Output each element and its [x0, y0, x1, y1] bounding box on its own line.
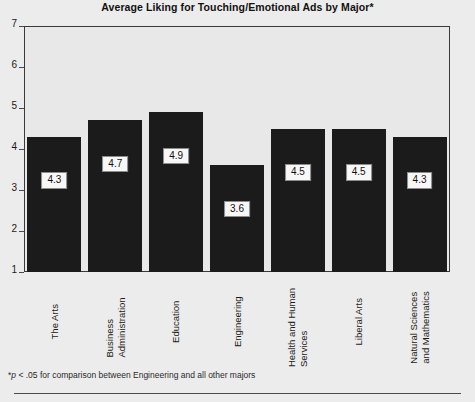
- x-axis-category-label: Health and Human Services: [267, 274, 328, 370]
- bars-layer: 4.34.74.93.64.54.54.3: [24, 26, 450, 272]
- x-axis-category-text: Liberal Arts: [353, 298, 365, 346]
- x-axis-category-label: Education: [146, 274, 207, 370]
- y-axis: 1234567: [0, 26, 24, 272]
- x-axis-category-text: Health and Human Services: [286, 288, 309, 367]
- y-axis-tick-label: 5: [11, 101, 17, 111]
- bar-value-label: 3.6: [224, 201, 250, 218]
- bar-value-label: 4.3: [407, 172, 433, 189]
- x-axis-category-text: The Arts: [49, 304, 61, 339]
- x-axis-category-text: Education: [170, 301, 182, 343]
- y-axis-tick-label: 7: [11, 19, 17, 29]
- bar-group: 4.9: [149, 26, 203, 272]
- significance-footnote: *p < .05 for comparison between Engineer…: [8, 370, 255, 380]
- bar-group: 4.5: [332, 26, 386, 272]
- x-axis-category-text: Natural Sciences and Mathematics: [408, 291, 431, 363]
- bar-group: 4.3: [393, 26, 447, 272]
- category-labels-layer: The ArtsBusiness AdministrationEducation…: [24, 274, 450, 370]
- y-axis-tick-label: 1: [11, 265, 17, 275]
- y-axis-tick-label: 6: [11, 60, 17, 70]
- chart-container: Average Liking for Touching/Emotional Ad…: [0, 0, 475, 402]
- y-axis-tick-label: 2: [11, 224, 17, 234]
- bar: [88, 120, 142, 272]
- x-axis-category-label: Natural Sciences and Mathematics: [389, 274, 450, 370]
- bar-group: 3.6: [210, 26, 264, 272]
- x-axis-category-label: Business Administration: [85, 274, 146, 370]
- chart-title: Average Liking for Touching/Emotional Ad…: [0, 1, 475, 13]
- bar: [271, 129, 325, 273]
- bar: [210, 165, 264, 272]
- bar: [332, 129, 386, 273]
- bar-value-label: 4.7: [102, 156, 128, 173]
- bar-value-label: 4.9: [163, 148, 189, 165]
- bar-group: 4.7: [88, 26, 142, 272]
- x-axis-category-label: Engineering: [207, 274, 268, 370]
- y-axis-tick-label: 4: [11, 142, 17, 152]
- bar-group: 4.5: [271, 26, 325, 272]
- x-axis-category-text: Business Administration: [104, 297, 127, 357]
- x-axis-category-text: Engineering: [231, 296, 243, 347]
- bar-value-label: 4.3: [41, 172, 67, 189]
- bar-group: 4.3: [27, 26, 81, 272]
- footnote-text: < .05 for comparison between Engineering…: [16, 370, 255, 380]
- y-axis-tick-mark: [19, 272, 24, 273]
- y-axis-tick-label: 3: [11, 183, 17, 193]
- bottom-divider: [14, 393, 461, 394]
- bar: [27, 137, 81, 272]
- x-axis-category-label: Liberal Arts: [328, 274, 389, 370]
- bar: [393, 137, 447, 272]
- bar: [149, 112, 203, 272]
- bar-value-label: 4.5: [285, 164, 311, 181]
- bar-value-label: 4.5: [346, 164, 372, 181]
- x-axis-category-label: The Arts: [24, 274, 85, 370]
